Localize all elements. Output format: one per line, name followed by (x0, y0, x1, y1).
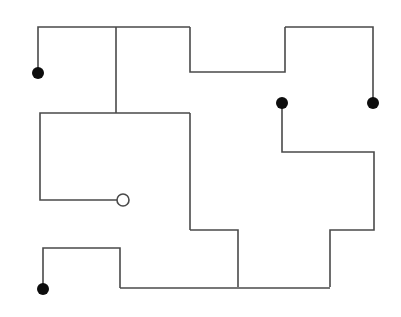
maze-diagram (0, 0, 401, 317)
terminal-dot-bottom-left (37, 283, 49, 295)
figure-background (0, 0, 401, 317)
terminal-dot-top-left (32, 67, 44, 79)
terminal-dot-mid-right (276, 97, 288, 109)
terminal-dot-far-right (367, 97, 379, 109)
terminal-circle-open-center (117, 194, 129, 206)
figure-canvas (0, 0, 401, 317)
